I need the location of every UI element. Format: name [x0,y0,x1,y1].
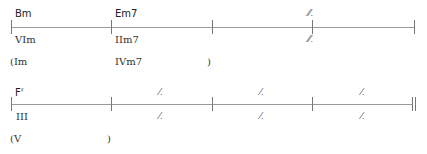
alt-paren-close: ) [207,56,211,67]
barline [111,20,112,34]
barline [212,97,213,111]
barline [212,20,213,34]
double-repeat-icon: ⁄⁄. [308,35,313,44]
repeat-icon: ⁄. [159,88,163,97]
alt-roman-numeral: (Im [10,56,27,67]
repeat-icon: ⁄. [159,112,163,121]
repeat-icon: ⁄. [260,88,264,97]
barline [111,97,112,111]
repeat-icon: ⁄. [361,88,365,97]
alt-roman-numeral: (V [10,133,21,144]
barline [312,97,313,111]
barline [11,20,12,34]
barline [312,20,313,34]
repeat-icon: ⁄. [260,112,264,121]
final-barline [412,97,413,111]
chord-symbol: Em7 [115,8,137,19]
roman-numeral: IIm7 [115,34,139,45]
barline-end [414,20,415,34]
sharp-accidental: ♯ [21,86,24,93]
barline [11,97,12,111]
alt-paren-close: ) [107,133,111,144]
alt-roman-numeral: IVm7 [115,56,142,67]
double-repeat-icon: ⁄⁄. [308,9,313,18]
final-barline [415,97,416,111]
staff-line-1 [11,27,415,28]
roman-numeral: III [16,111,28,122]
roman-numeral: VIm [15,34,36,45]
chord-symbol: F♯ [15,86,24,98]
chord-symbol: Bm [15,8,32,19]
repeat-icon: ⁄. [361,112,365,121]
